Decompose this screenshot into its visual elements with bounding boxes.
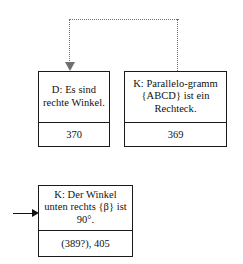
node-bottom-label: K: Der Winkel unten rechts {β} ist 90°. — [39, 186, 132, 230]
dotted-connector-right-segment — [177, 19, 178, 71]
node-right-label: K: Parallelo-gramm {ABCD} ist ein Rechte… — [125, 72, 226, 122]
node-box-left[interactable]: D: Es sind rechte Winkel. 370 — [38, 71, 110, 147]
node-bottom-id: (389?), 405 — [39, 230, 132, 256]
dotted-connector-left-segment — [69, 19, 70, 63]
dotted-connector-arrowhead-icon — [65, 62, 75, 71]
dotted-connector-horizontal-segment — [70, 19, 179, 20]
node-box-bottom[interactable]: K: Der Winkel unten rechts {β} ist 90°. … — [38, 185, 133, 257]
diagram-canvas: D: Es sind rechte Winkel. 370 K: Paralle… — [0, 0, 243, 264]
node-left-id: 370 — [39, 122, 109, 146]
node-right-id: 369 — [125, 122, 226, 146]
node-box-right[interactable]: K: Parallelo-gramm {ABCD} ist ein Rechte… — [124, 71, 227, 147]
node-left-label: D: Es sind rechte Winkel. — [39, 72, 109, 122]
